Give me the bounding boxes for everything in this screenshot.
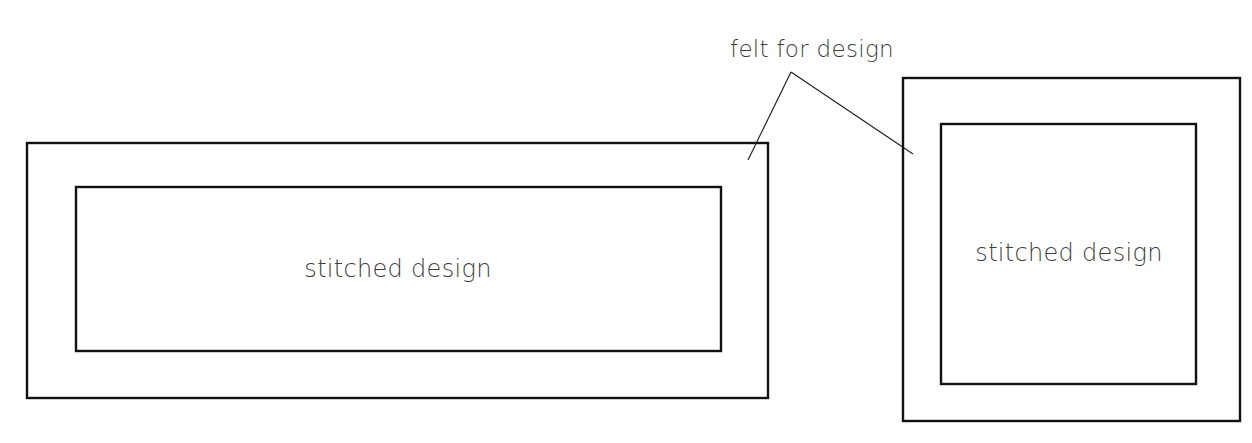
felt-design-diagram: felt for design stitched design stitched… <box>0 0 1252 443</box>
square-panel: stitched design <box>903 78 1240 421</box>
stitched-design-label: stitched design <box>975 239 1162 267</box>
rectangular-panel: stitched design <box>27 143 768 398</box>
leader-line-left <box>748 72 791 160</box>
callout-label: felt for design <box>730 36 894 62</box>
stitched-design-label: stitched design <box>304 255 491 283</box>
leader-line-right <box>791 72 913 154</box>
